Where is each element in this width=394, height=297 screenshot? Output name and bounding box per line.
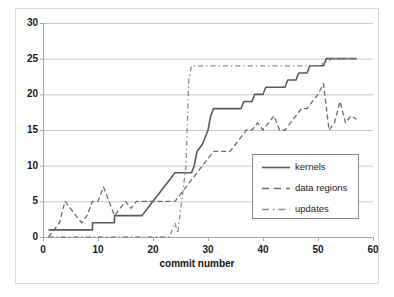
y-tick-label-25: 25 (18, 53, 38, 64)
x-tick-label-50: 50 (303, 244, 333, 255)
legend-item-kernels: kernels (253, 157, 360, 178)
x-tick-label-60: 60 (358, 244, 388, 255)
y-tick-label-20: 20 (18, 88, 38, 99)
legend-swatch-solid-icon (261, 157, 291, 178)
x-axis-title: commit number (0, 258, 394, 269)
legend-swatch-dashdot-icon (261, 199, 291, 220)
x-tick-label-30: 30 (193, 244, 223, 255)
legend-label-kernels: kernels (295, 161, 326, 172)
legend-swatch-dashed-icon (261, 178, 291, 199)
y-tick-label-5: 5 (18, 195, 38, 206)
legend-item-data-regions: data regions (253, 178, 360, 199)
y-tick-label-0: 0 (18, 231, 38, 242)
y-tick-label-15: 15 (18, 124, 38, 135)
chart-figure: 051015202530 0102030405060 commit number… (0, 0, 394, 297)
y-tick-label-10: 10 (18, 160, 38, 171)
legend-item-updates: updates (253, 199, 360, 220)
chart-legend: kernels data regions updates (252, 154, 359, 219)
x-tick-label-10: 10 (83, 244, 113, 255)
x-tick-label-40: 40 (248, 244, 278, 255)
legend-label-updates: updates (295, 203, 329, 214)
legend-label-data-regions: data regions (295, 182, 347, 193)
x-tick-label-0: 0 (28, 244, 58, 255)
y-tick-label-30: 30 (18, 17, 38, 28)
x-tick-label-20: 20 (138, 244, 168, 255)
